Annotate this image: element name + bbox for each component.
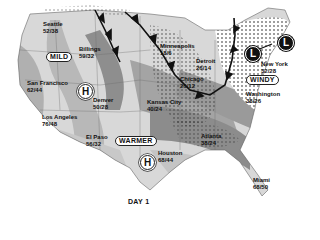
- city-temps: 40/24: [147, 106, 162, 112]
- high-pressure-icon: H: [140, 155, 155, 170]
- city-denver: Denver50/28: [93, 97, 113, 110]
- city-name: Miami: [253, 177, 270, 183]
- city-name: Seattle: [43, 21, 63, 27]
- high-pressure-icon: H: [78, 84, 93, 99]
- city-temps: 62/44: [27, 87, 42, 93]
- city-minneapolis: Minneapolis18/6: [160, 43, 195, 56]
- city-houston: Houston68/44: [158, 150, 182, 163]
- city-kansas-city: Kansas City40/24: [147, 99, 181, 112]
- city-name: New York: [261, 61, 288, 67]
- city-temps: 26/12: [180, 83, 195, 89]
- city-los-angeles: Los Angeles76/48: [42, 114, 77, 127]
- city-temps: 38/24: [201, 140, 216, 146]
- city-name: Denver: [93, 97, 113, 103]
- city-name: Atlanta: [201, 133, 221, 139]
- city-temps: 68/44: [158, 157, 173, 163]
- city-temps: 76/48: [42, 121, 57, 127]
- city-name: Chicago: [180, 76, 204, 82]
- city-temps: 38/26: [246, 98, 261, 104]
- city-temps: 32/28: [261, 68, 276, 74]
- city-name: Billings: [79, 46, 101, 52]
- city-name: Washington: [246, 91, 280, 97]
- city-name: Detroit: [196, 58, 215, 64]
- windy-label: WINDY: [246, 75, 279, 85]
- city-washington: Washington38/26: [246, 91, 280, 104]
- city-temps: 18/6: [160, 50, 172, 56]
- city-billings: Billings59/32: [79, 46, 101, 59]
- city-temps: 59/32: [79, 53, 94, 59]
- city-detroit: Detroit26/14: [196, 58, 215, 71]
- city-temps: 50/28: [93, 104, 108, 110]
- warmer-label: WARMER: [115, 136, 157, 146]
- city-seattle: Seattle52/38: [43, 21, 63, 34]
- city-temps: 52/38: [43, 28, 58, 34]
- city-temps: 26/14: [196, 65, 211, 71]
- city-temps: 68/50: [253, 184, 268, 190]
- city-el-paso: El Paso56/32: [86, 134, 108, 147]
- low-pressure-icon: L: [245, 46, 261, 62]
- city-name: Kansas City: [147, 99, 181, 105]
- low-pressure-icon: L: [278, 35, 294, 51]
- city-name: Minneapolis: [160, 43, 195, 49]
- city-chicago: Chicago26/12: [180, 76, 204, 89]
- city-new-york: New York32/28: [261, 61, 288, 74]
- city-san-francisco: San Francisco62/44: [27, 80, 68, 93]
- mild-label: MILD: [46, 52, 72, 62]
- map-caption: DAY 1: [128, 198, 149, 205]
- city-temps: 56/32: [86, 141, 101, 147]
- city-miami: Miami68/50: [253, 177, 270, 190]
- city-name: San Francisco: [27, 80, 68, 86]
- city-name: Houston: [158, 150, 182, 156]
- city-name: Los Angeles: [42, 114, 77, 120]
- city-atlanta: Atlanta38/24: [201, 133, 221, 146]
- city-name: El Paso: [86, 134, 108, 140]
